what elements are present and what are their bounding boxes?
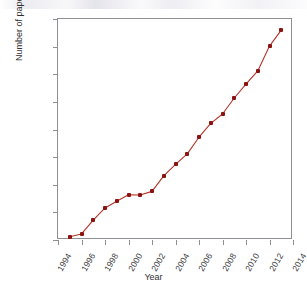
- y-axis-tick: [53, 19, 58, 20]
- x-axis-tick: [82, 240, 83, 245]
- x-axis-tick-label: 2000: [126, 251, 144, 273]
- x-axis-title: Year: [0, 272, 307, 282]
- y-axis-title: Number of papers: [14, 0, 24, 78]
- x-axis-tick-label: 1996: [79, 251, 97, 273]
- scan-noise-artifact: [0, 0, 307, 9]
- x-axis-tick: [129, 240, 130, 245]
- x-axis-tick: [152, 240, 153, 245]
- y-axis-tick: [53, 130, 58, 131]
- data-point-marker: [162, 174, 166, 178]
- x-axis-tick-label: 2010: [243, 251, 261, 273]
- data-point-marker: [68, 235, 72, 239]
- data-point-marker: [138, 193, 142, 197]
- x-axis-tick-label: 1998: [102, 251, 120, 273]
- y-axis-tick: [53, 185, 58, 186]
- data-point-marker: [91, 218, 95, 222]
- x-axis-tick: [223, 240, 224, 245]
- x-axis-tick: [58, 240, 59, 245]
- data-point-marker: [209, 121, 213, 125]
- y-axis-tick: [53, 157, 58, 158]
- x-axis-tick: [199, 240, 200, 245]
- series-line: [58, 19, 293, 240]
- x-axis-tick: [246, 240, 247, 245]
- data-point-marker: [279, 28, 283, 32]
- data-point-marker: [221, 112, 225, 116]
- x-axis-tick-label: 2002: [149, 251, 167, 273]
- chart-figure: Number of papers 05001000150020002500300…: [0, 0, 307, 293]
- x-axis-tick-label: 2006: [196, 251, 214, 273]
- data-point-marker: [103, 206, 107, 210]
- y-axis-tick: [53, 102, 58, 103]
- y-axis-tick: [53, 212, 58, 213]
- y-axis-tick: [53, 74, 58, 75]
- data-point-marker: [268, 44, 272, 48]
- data-point-marker: [197, 135, 201, 139]
- y-axis-tick: [53, 47, 58, 48]
- data-point-marker: [174, 162, 178, 166]
- x-axis-tick-label: 2012: [267, 251, 285, 273]
- plot-area: 0500100015002000250030003500400019941996…: [57, 18, 292, 239]
- x-axis-tick: [176, 240, 177, 245]
- data-point-marker: [115, 199, 119, 203]
- data-point-marker: [185, 152, 189, 156]
- data-point-marker: [232, 96, 236, 100]
- data-point-marker: [150, 189, 154, 193]
- data-point-marker: [256, 69, 260, 73]
- x-axis-tick: [270, 240, 271, 245]
- data-point-marker: [244, 82, 248, 86]
- x-axis-tick-label: 2004: [173, 251, 191, 273]
- x-axis-tick-label: 2008: [220, 251, 238, 273]
- x-axis-tick-label: 2014: [290, 251, 307, 273]
- data-point-marker: [127, 193, 131, 197]
- x-axis-tick: [105, 240, 106, 245]
- plot-inner: [58, 19, 291, 238]
- x-axis-tick: [293, 240, 294, 245]
- data-point-marker: [80, 232, 84, 236]
- x-axis-tick-label: 1994: [55, 251, 73, 273]
